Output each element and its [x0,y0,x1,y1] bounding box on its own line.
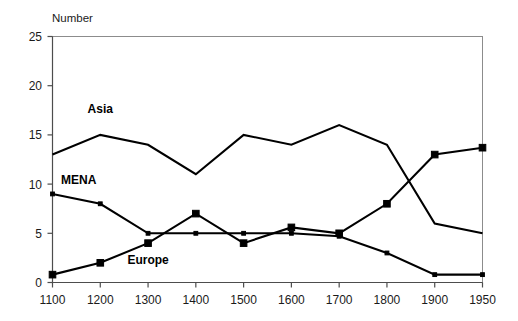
y-tick-label: 25 [29,30,43,44]
x-tick-label: 1400 [182,293,209,307]
data-point-europe-1500 [240,240,247,247]
data-point-mena-1400 [194,231,198,235]
data-point-mena-1200 [98,202,102,206]
x-tick-label: 1200 [87,293,114,307]
data-point-mena-1600 [289,231,293,235]
x-tick-label: 1600 [278,293,305,307]
series-label-europe: Europe [127,253,169,267]
y-tick-label: 10 [29,178,43,192]
data-point-mena-1500 [242,231,246,235]
data-point-mena-1300 [146,231,150,235]
y-axis-title: Number [52,12,93,24]
x-tick-label: 1700 [326,293,353,307]
x-tick-label: 1500 [230,293,257,307]
x-tick-label: 1900 [421,293,448,307]
chart-background [0,0,518,321]
data-point-mena-1950 [481,273,485,277]
data-point-europe-1300 [145,240,152,247]
y-tick-label: 20 [29,79,43,93]
data-point-europe-1800 [384,200,391,207]
data-point-europe-1900 [431,151,438,158]
y-tick-label: 15 [29,128,43,142]
data-point-europe-1100 [49,271,56,278]
x-tick-label: 1950 [469,293,496,307]
series-label-mena: MENA [61,173,97,187]
y-tick-label: 5 [35,227,42,241]
data-point-mena-1900 [433,273,437,277]
data-point-europe-1950 [479,144,486,151]
chart-container: 0510152025 11001200130014001500160017001… [0,0,518,321]
data-point-mena-1800 [385,251,389,255]
x-tick-label: 1100 [40,293,66,307]
line-chart: 0510152025 11001200130014001500160017001… [0,0,518,321]
data-point-europe-1600 [288,224,295,231]
x-tick-label: 1300 [135,293,162,307]
x-tick-label: 1800 [374,293,401,307]
y-tick-label: 0 [35,276,42,290]
data-point-europe-1400 [193,210,200,217]
data-point-europe-1200 [97,260,104,267]
data-point-europe-1700 [336,230,343,237]
data-point-mena-1100 [51,192,55,196]
series-label-asia: Asia [88,102,114,116]
